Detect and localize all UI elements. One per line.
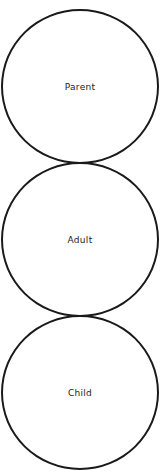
child-circle: Child (1, 315, 159, 470)
ego-states-diagram: Parent Adult Child (0, 0, 164, 471)
child-label: Child (68, 388, 92, 398)
parent-circle: Parent (1, 9, 159, 164)
adult-label: Adult (68, 235, 93, 245)
adult-circle: Adult (1, 162, 159, 317)
parent-label: Parent (65, 82, 96, 92)
